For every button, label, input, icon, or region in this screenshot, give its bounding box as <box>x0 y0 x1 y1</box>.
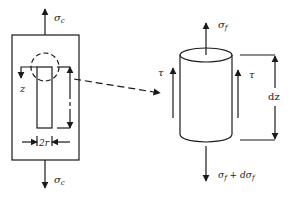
dz-label: dz <box>268 91 280 102</box>
radius-label: 2r <box>38 138 50 148</box>
fiber-top-stress-label: σf <box>218 19 229 32</box>
composite-block: σc σc z 2r <box>12 9 79 188</box>
fiber-outline <box>37 67 52 128</box>
fiber-stress-diagram: σc σc z 2r σf σf + dσf τ <box>0 0 293 202</box>
cylinder-bottom <box>180 134 232 142</box>
z-axis-label: z <box>19 83 26 94</box>
fiber-element: σf σf + dσf τ τ dz <box>158 19 280 182</box>
top-stress-label: σc <box>54 12 65 25</box>
shear-right-label: τ <box>249 69 255 80</box>
shear-left-label: τ <box>158 67 164 78</box>
fiber-bottom-stress-label: σf + dσf <box>218 170 256 182</box>
detail-connector-arrow-icon <box>74 79 160 93</box>
bottom-stress-label: σc <box>54 174 65 187</box>
